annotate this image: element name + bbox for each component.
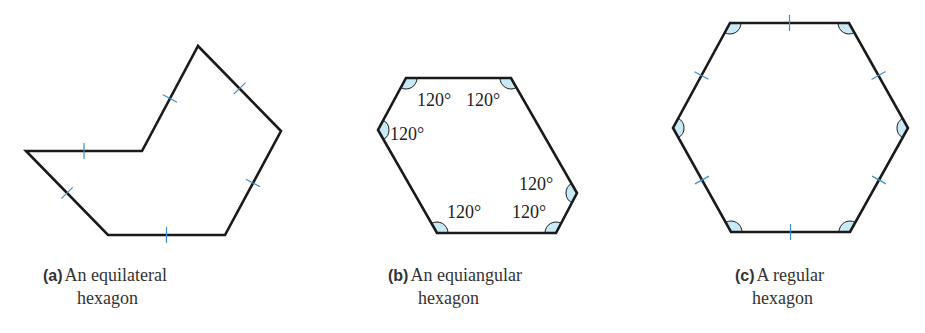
angle-label: 120° (512, 202, 546, 222)
caption-tag: (a) (43, 267, 63, 284)
angle-label: 120° (519, 174, 553, 194)
angle-label: 120° (447, 202, 481, 222)
caption-line-1: An equilateral (65, 265, 167, 285)
side-tick-icon (872, 176, 886, 184)
caption-tag: (c) (735, 267, 755, 284)
caption-line-1: An equiangular (410, 265, 521, 285)
caption-line-1: A regular (757, 265, 824, 285)
angle-label: 120° (466, 90, 500, 110)
side-tick-icon (872, 72, 886, 80)
caption-equilateral-hexagon: (a)An equilateral hexagon (43, 264, 167, 309)
equilateral-hexagon-diagram (26, 46, 281, 243)
caption-line-2: hexagon (388, 287, 522, 309)
angle-label: 120° (390, 124, 424, 144)
equiangular-hexagon-diagram: 120°120°120°120°120°120° (378, 78, 577, 233)
side-tick-icon (695, 176, 709, 184)
caption-line-2: hexagon (735, 287, 824, 309)
regular-hexagon-diagram (673, 15, 908, 240)
hexagon-outline (26, 46, 281, 235)
hexagon-outline (673, 23, 908, 232)
caption-regular-hexagon: (c)A regular hexagon (735, 264, 824, 309)
angle-label: 120° (417, 90, 451, 110)
caption-line-2: hexagon (43, 287, 167, 309)
caption-equiangular-hexagon: (b)An equiangular hexagon (388, 264, 522, 309)
caption-tag: (b) (388, 267, 408, 284)
